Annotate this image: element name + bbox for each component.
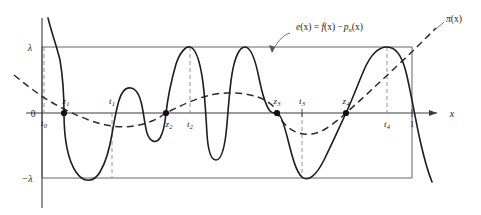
pi-curve [14,28,436,134]
diagram-canvas: λ −λ 0 1 x t0 t1 t2 t3 t4 z1 z2 z3 z4 e(… [0,0,481,215]
pi-label-leader [436,22,444,29]
label-t2: t2 [187,119,194,130]
label-lambda-lower: −λ [21,173,33,184]
label-z1: z1 [62,96,70,107]
zero-dot-z4 [343,110,349,116]
zero-dot-z2 [163,110,169,116]
label-t1: t1 [109,96,115,107]
label-z3: z3 [273,96,282,107]
equioscillation-figure: λ −λ 0 1 x t0 t1 t2 t3 t4 z1 z2 z3 z4 e(… [0,0,481,215]
error-label-leader [272,33,290,52]
label-t0: t0 [41,118,48,129]
label-t3: t3 [299,96,306,107]
error-label-arrowhead [269,45,275,53]
label-error-curve: e(x) = f(x) −pn(x) [296,22,363,33]
zero-dot-z3 [274,110,280,116]
error-curve [48,18,432,182]
label-origin: 0 [31,109,36,119]
label-t4: t4 [384,119,391,130]
label-z4: z4 [342,96,351,107]
label-pi-curve: π(x) [446,14,462,25]
label-right-endpoint: 1 [410,119,415,129]
label-axis-x: x [449,108,455,119]
label-z2: z2 [165,119,174,130]
zero-dot-z1 [61,110,67,116]
x-axis-arrowhead [429,110,437,116]
label-lambda-upper: λ [27,42,33,53]
